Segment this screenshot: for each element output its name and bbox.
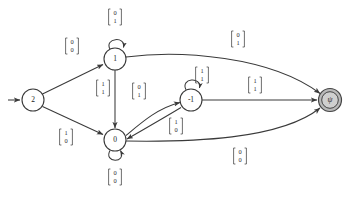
transition-0-to-minus1 bbox=[126, 103, 180, 136]
vector-bottom: 0 bbox=[238, 156, 241, 163]
label-self-loop-minus1: 1 1 bbox=[196, 67, 209, 83]
vector-top: 1 bbox=[101, 80, 104, 87]
state-label-1: 1 bbox=[113, 54, 117, 63]
bracket-left bbox=[133, 83, 135, 99]
bracket-left bbox=[249, 77, 251, 93]
state-node-0[interactable]: 0 bbox=[104, 129, 126, 151]
edges-layer bbox=[8, 40, 320, 161]
vector-top: 0 bbox=[238, 148, 241, 155]
state-diagram-canvas: 2 1 0 -1 ψ bbox=[0, 0, 357, 198]
vector-top: 1 bbox=[174, 118, 177, 125]
state-label-minus1: -1 bbox=[188, 95, 194, 104]
vector-top: 0 bbox=[70, 38, 73, 45]
bracket-right bbox=[108, 80, 110, 96]
transition-2-to-1 bbox=[43, 65, 104, 95]
bracket-left bbox=[109, 169, 111, 185]
transition-1-to-psi bbox=[126, 54, 320, 93]
state-node-accepting-psi[interactable]: ψ bbox=[319, 89, 342, 112]
transition-minus1-to-0 bbox=[127, 108, 181, 140]
vector-bottom: 1 bbox=[101, 88, 104, 95]
vector-bottom: 0 bbox=[113, 177, 116, 184]
bracket-left bbox=[232, 31, 234, 47]
label-transition-minus1-to-0: 1 0 bbox=[170, 118, 183, 134]
vector-top: 0 bbox=[137, 83, 140, 90]
automaton-figure: 2 1 0 -1 ψ bbox=[0, 0, 357, 198]
self-loop-0 bbox=[109, 151, 122, 161]
vector-bottom: 0 bbox=[70, 46, 73, 53]
bracket-left bbox=[170, 118, 172, 134]
bracket-right bbox=[144, 83, 146, 99]
label-transition-0-to-minus1: 0 1 bbox=[133, 83, 146, 99]
vector-top: 1 bbox=[64, 129, 67, 136]
bracket-right bbox=[260, 77, 262, 93]
vector-bottom: 1 bbox=[113, 17, 116, 24]
label-transition-1-to-0: 1 1 bbox=[97, 80, 110, 96]
self-loop-minus1 bbox=[185, 80, 200, 90]
label-self-loop-1: 0 1 bbox=[109, 9, 122, 25]
vector-bottom: 1 bbox=[137, 91, 140, 98]
state-node-minus1[interactable]: -1 bbox=[180, 89, 202, 111]
vector-bottom: 1 bbox=[236, 39, 239, 46]
bracket-right bbox=[120, 9, 122, 25]
label-self-loop-0: 0 0 bbox=[109, 169, 122, 185]
bracket-left bbox=[66, 38, 68, 54]
vector-top: 0 bbox=[113, 9, 116, 16]
vector-top: 1 bbox=[253, 77, 256, 84]
label-transition-2-to-1: 0 0 bbox=[66, 38, 79, 54]
vector-bottom: 0 bbox=[174, 126, 177, 133]
vector-top: 0 bbox=[236, 31, 239, 38]
label-transition-2-to-0: 1 0 bbox=[60, 129, 73, 145]
bracket-left bbox=[109, 9, 111, 25]
bracket-right bbox=[120, 169, 122, 185]
bracket-right bbox=[77, 38, 79, 54]
vector-top: 1 bbox=[200, 67, 203, 74]
vector-bottom: 0 bbox=[64, 137, 67, 144]
label-transition-0-to-psi: 0 0 bbox=[234, 148, 247, 164]
bracket-left bbox=[234, 148, 236, 164]
bracket-left bbox=[60, 129, 62, 145]
state-label-2: 2 bbox=[31, 95, 35, 104]
bracket-right bbox=[243, 31, 245, 47]
bracket-right bbox=[207, 67, 209, 83]
label-transition-minus1-to-psi: 1 1 bbox=[249, 77, 262, 93]
bracket-right bbox=[181, 118, 183, 134]
state-node-1[interactable]: 1 bbox=[104, 48, 126, 70]
state-node-2[interactable]: 2 bbox=[22, 89, 44, 111]
label-transition-1-to-psi: 0 1 bbox=[232, 31, 245, 47]
vector-bottom: 1 bbox=[253, 85, 256, 92]
bracket-left bbox=[97, 80, 99, 96]
bracket-right bbox=[245, 148, 247, 164]
vector-bottom: 1 bbox=[200, 75, 203, 82]
transition-labels-layer: 0 0 1 0 0 1 1 1 bbox=[60, 9, 262, 185]
state-label-0: 0 bbox=[113, 135, 117, 144]
vector-top: 0 bbox=[113, 169, 116, 176]
bracket-right bbox=[71, 129, 73, 145]
